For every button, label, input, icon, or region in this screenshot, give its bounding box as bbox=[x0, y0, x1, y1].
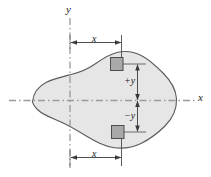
bottom-x-dimension-label: x bbox=[92, 149, 96, 159]
figure-canvas: y x x x +y −y bbox=[0, 0, 211, 177]
minus-y-dimension-label: −y bbox=[124, 111, 135, 121]
y-axis-label: y bbox=[66, 4, 71, 15]
engineering-figure-svg bbox=[0, 0, 211, 177]
x-axis-label: x bbox=[198, 92, 203, 103]
top-x-dimension-label: x bbox=[92, 34, 96, 44]
plus-y-dimension-label: +y bbox=[124, 76, 135, 86]
lower-square-hole bbox=[112, 126, 125, 139]
upper-square-hole bbox=[111, 58, 124, 71]
